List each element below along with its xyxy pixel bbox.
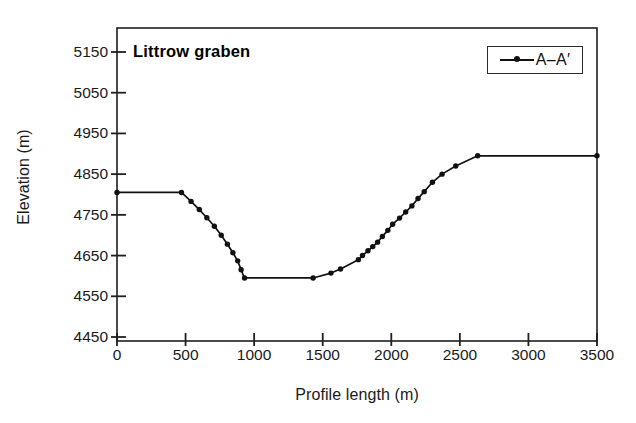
x-tick-label: 1500 <box>288 346 358 364</box>
data-series-group <box>114 153 599 281</box>
y-tick-label: 4950 <box>42 124 108 142</box>
axis-ticks <box>111 52 597 346</box>
legend-line-marker-icon <box>500 54 534 66</box>
plot-title: Littrow graben <box>133 42 250 61</box>
x-tick-label: 0 <box>82 346 152 364</box>
legend: A–A′ <box>487 46 583 74</box>
chart-figure: Elevation (m) 5150 5050 4950 4850 4750 4… <box>0 0 636 423</box>
y-tick-label: 4850 <box>42 165 108 183</box>
y-tick-label: 5150 <box>42 43 108 61</box>
x-tick-label: 3500 <box>562 346 632 364</box>
x-tick-label: 2000 <box>356 346 426 364</box>
y-tick-label: 4450 <box>42 328 108 346</box>
x-axis-title: Profile length (m) <box>117 386 597 404</box>
y-tick-label: 4550 <box>42 287 108 305</box>
axis-frame <box>117 28 597 341</box>
x-tick-label: 1000 <box>219 346 289 364</box>
x-tick-label: 500 <box>151 346 221 364</box>
y-tick-label: 4650 <box>42 247 108 265</box>
x-tick-label: 3000 <box>493 346 563 364</box>
y-tick-label: 4750 <box>42 206 108 224</box>
y-tick-label: 5050 <box>42 84 108 102</box>
legend-label: A–A′ <box>536 51 570 69</box>
y-axis-title: Elevation (m) <box>15 67 33 287</box>
x-tick-label: 2500 <box>425 346 495 364</box>
